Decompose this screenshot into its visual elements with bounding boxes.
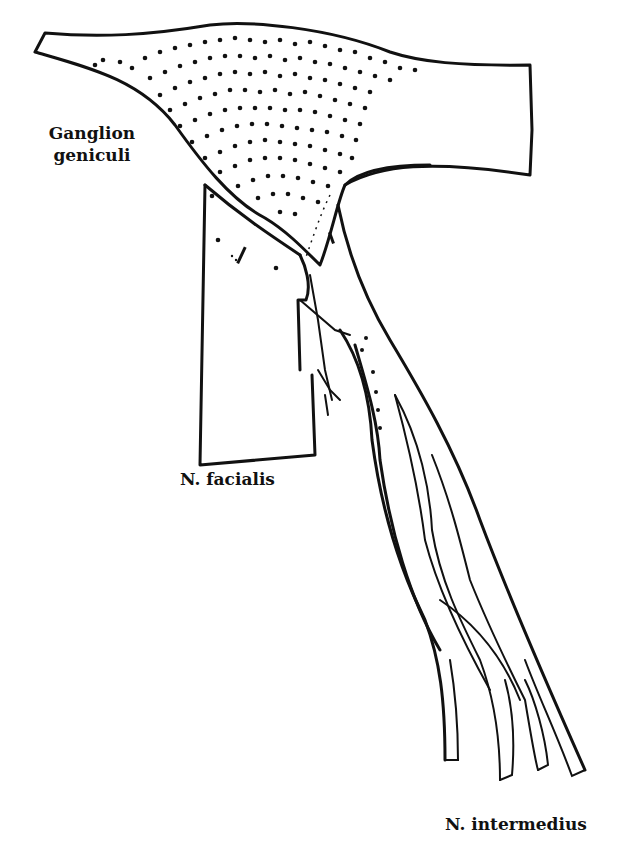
- label-n-facialis: N. facialis: [180, 468, 275, 490]
- label-ganglion-geniculi: Ganglion geniculi: [47, 122, 137, 166]
- intermedius-outline: [338, 205, 585, 780]
- facialis-outline: [200, 185, 315, 465]
- label-n-intermedius: N. intermedius: [445, 813, 587, 835]
- label-ganglion-line1: Ganglion: [47, 122, 137, 144]
- label-ganglion-line2: geniculi: [47, 144, 137, 166]
